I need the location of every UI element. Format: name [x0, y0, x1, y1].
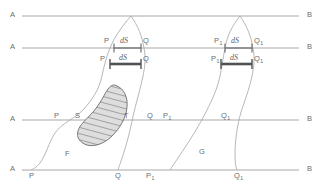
point-label-q1-upper-right: Q1 — [254, 37, 263, 45]
point-label-p1-upper-right: P1 — [214, 37, 222, 45]
diagram-graphics — [0, 0, 331, 191]
point-label-p-mid: P — [54, 112, 59, 120]
line-label-a-2: A — [10, 43, 15, 51]
ds-label-lower-left: dS — [119, 54, 127, 62]
line-label-a-4: A — [10, 165, 15, 173]
point-label-q1-bottom: Q1 — [234, 172, 243, 180]
region-label-t: T — [124, 112, 129, 120]
line-label-b-3: B — [307, 115, 312, 123]
line-label-b-4: B — [307, 165, 312, 173]
point-label-p1-bottom: P1 — [146, 172, 154, 180]
ray-curve-group-right — [170, 16, 254, 170]
point-label-q-upper-left: Q — [143, 37, 149, 45]
ds-label-upper-left: dS — [120, 37, 128, 45]
point-label-p-bottom: P — [29, 172, 34, 180]
ray-curve-p1-right — [170, 16, 240, 170]
figure-canvas: A A A A B B B B P dS Q P dS Q P1 dS Q1 P… — [0, 0, 331, 191]
ds-label-upper-right: dS — [231, 37, 239, 45]
line-label-b-2: B — [307, 43, 312, 51]
region-label-f: F — [65, 150, 70, 158]
point-label-q-lower-left: Q — [143, 55, 149, 63]
region-label-g: G — [199, 148, 205, 156]
point-label-q-bottom: Q — [115, 172, 121, 180]
point-label-q1-mid: Q1 — [221, 112, 230, 120]
point-label-q1-lower-right: Q1 — [254, 55, 263, 63]
line-label-a-1: A — [10, 11, 15, 19]
region-label-s: S — [75, 112, 80, 120]
line-label-a-3: A — [10, 115, 15, 123]
point-label-p-lower-left: P — [100, 55, 105, 63]
hatched-region-fill — [77, 85, 127, 146]
ds-label-lower-right: dS — [230, 54, 238, 62]
point-label-p1-lower-right: P1 — [211, 55, 219, 63]
point-label-p1-mid: P1 — [163, 112, 171, 120]
point-label-q-mid: Q — [147, 112, 153, 120]
hatched-region — [77, 85, 127, 146]
line-label-b-1: B — [307, 11, 312, 19]
point-label-p-upper-left: P — [104, 37, 109, 45]
